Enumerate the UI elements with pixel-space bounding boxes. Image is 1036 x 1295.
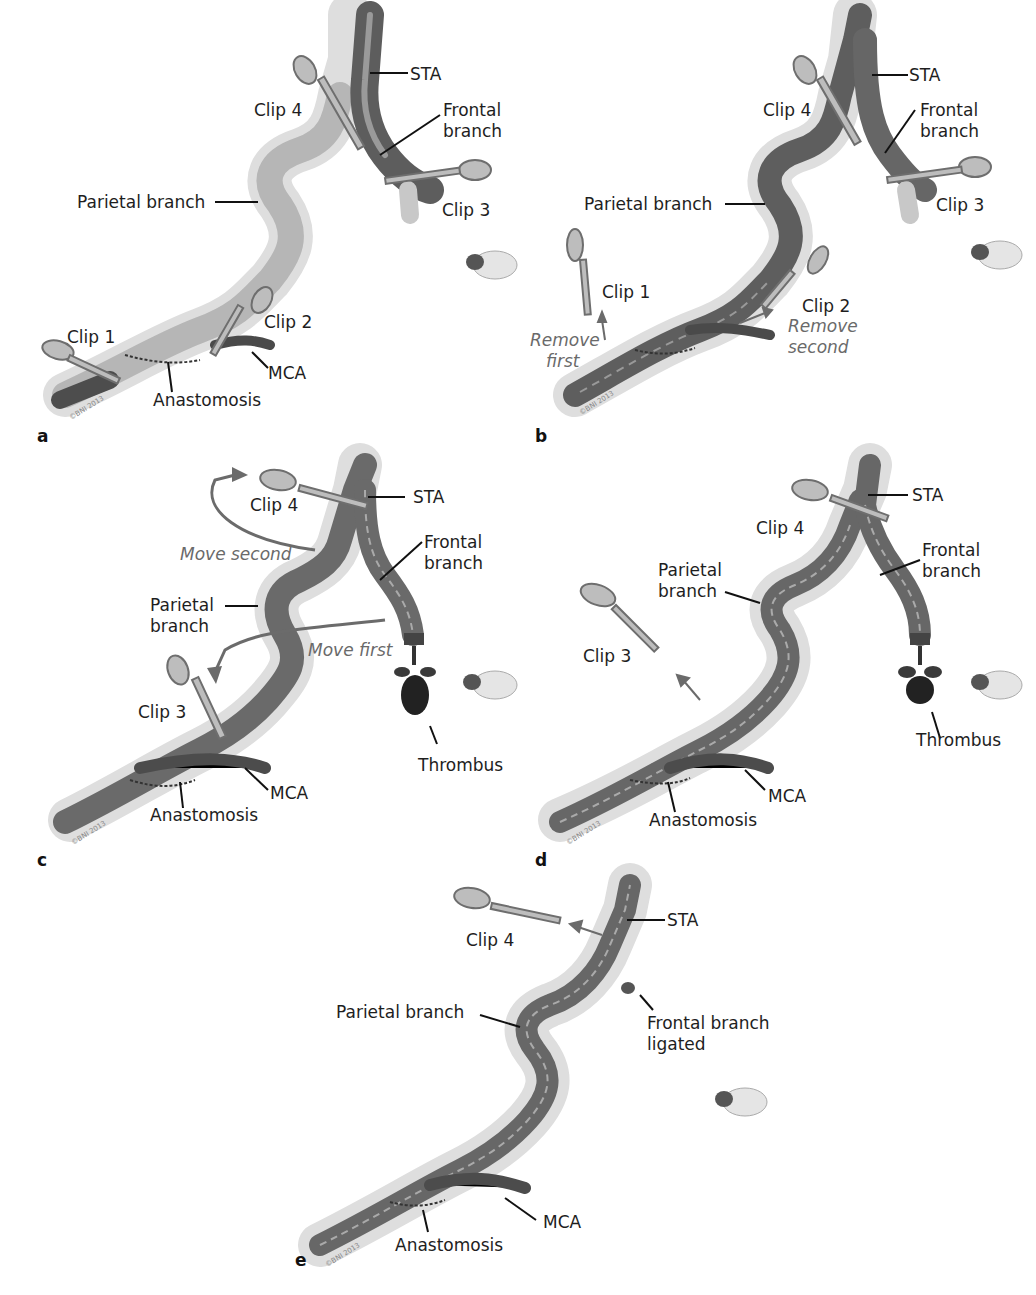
label-sta: STA xyxy=(909,65,941,86)
label-frontal-branch: Frontal branch xyxy=(424,532,483,574)
label-clip-4: Clip 4 xyxy=(250,495,298,516)
label-clip-4: Clip 4 xyxy=(756,518,804,539)
label-frontal-branch: Frontal branch xyxy=(922,540,981,582)
thrombus-icon xyxy=(906,676,934,704)
label-clip-3: Clip 3 xyxy=(442,200,490,221)
label-clip-4: Clip 4 xyxy=(254,100,302,121)
label-mca: MCA xyxy=(543,1212,581,1233)
label-frontal-ligated-line2: ligated xyxy=(647,1034,770,1055)
label-move-first: Move first xyxy=(308,640,393,661)
label-mca: MCA xyxy=(268,363,306,384)
label-frontal-line2: branch xyxy=(922,561,981,582)
panel-e: Clip 4 STA Parietal branch Frontal branc… xyxy=(280,870,780,1295)
label-move-second: Move second xyxy=(180,544,292,565)
label-parietal-branch: Parietal branch xyxy=(336,1002,464,1023)
panel-a: STA Frontal branch Clip 4 Clip 3 Parieta… xyxy=(0,0,520,450)
label-parietal-branch: Parietal branch xyxy=(150,595,214,637)
label-remove-first: Remove first xyxy=(530,330,600,372)
label-frontal-line2: branch xyxy=(443,121,502,142)
label-clip-2: Clip 2 xyxy=(264,312,312,333)
label-clip-4: Clip 4 xyxy=(466,930,514,951)
label-sta: STA xyxy=(413,487,445,508)
label-clip-2: Clip 2 xyxy=(802,296,850,317)
label-frontal-line2: branch xyxy=(424,553,483,574)
panel-letter-b: b xyxy=(535,426,547,446)
label-frontal-line1: Frontal xyxy=(922,540,981,561)
label-frontal-ligated-line1: Frontal branch xyxy=(647,1013,770,1034)
label-clip-3: Clip 3 xyxy=(583,646,631,667)
label-parietal-line1: Parietal xyxy=(150,595,214,616)
label-sta: STA xyxy=(667,910,699,931)
panel-c: STA Clip 4 Move second Frontal branch Pa… xyxy=(0,450,520,870)
label-parietal-branch: Parietal branch xyxy=(584,194,712,215)
label-parietal-branch: Parietal branch xyxy=(77,192,205,213)
label-anastomosis: Anastomosis xyxy=(150,805,258,826)
label-frontal-line2: branch xyxy=(920,121,979,142)
label-frontal-line1: Frontal xyxy=(443,100,502,121)
label-anastomosis: Anastomosis xyxy=(153,390,261,411)
panel-d: STA Clip 4 Frontal branch Parietal branc… xyxy=(520,450,1036,870)
panel-b: STA Frontal branch Clip 4 Clip 3 Parieta… xyxy=(520,0,1036,450)
label-frontal-branch: Frontal branch xyxy=(443,100,502,142)
label-remove-first-line1: Remove xyxy=(530,330,600,351)
label-frontal-branch-ligated: Frontal branch ligated xyxy=(647,1013,770,1055)
label-clip-3: Clip 3 xyxy=(936,195,984,216)
label-parietal-line2: branch xyxy=(658,581,722,602)
label-sta: STA xyxy=(410,64,442,85)
label-clip-3: Clip 3 xyxy=(138,702,186,723)
label-thrombus: Thrombus xyxy=(418,755,503,776)
ligature-icon xyxy=(621,982,635,994)
label-mca: MCA xyxy=(270,783,308,804)
panel-letter-d: d xyxy=(535,850,547,870)
label-frontal-line1: Frontal xyxy=(920,100,979,121)
label-frontal-branch: Frontal branch xyxy=(920,100,979,142)
label-frontal-line1: Frontal xyxy=(424,532,483,553)
label-anastomosis: Anastomosis xyxy=(649,810,757,831)
panel-letter-c: c xyxy=(37,850,47,870)
label-remove-first-line2: first xyxy=(530,351,600,372)
label-clip-1: Clip 1 xyxy=(67,327,115,348)
label-clip-1: Clip 1 xyxy=(602,282,650,303)
thrombus-icon xyxy=(401,675,429,715)
label-parietal-line2: branch xyxy=(150,616,214,637)
panel-b-illustration xyxy=(520,0,1036,450)
label-mca: MCA xyxy=(768,786,806,807)
label-anastomosis: Anastomosis xyxy=(395,1235,503,1256)
panel-a-illustration xyxy=(0,0,520,450)
label-parietal-branch: Parietal branch xyxy=(658,560,722,602)
label-remove-second: Remove second xyxy=(788,316,858,358)
label-sta: STA xyxy=(912,485,944,506)
label-remove-second-line2: second xyxy=(788,337,858,358)
clip-icon xyxy=(453,885,561,923)
label-remove-second-line1: Remove xyxy=(788,316,858,337)
label-thrombus: Thrombus xyxy=(916,730,1001,751)
label-parietal-line1: Parietal xyxy=(658,560,722,581)
panel-e-illustration xyxy=(280,870,780,1295)
panel-letter-a: a xyxy=(37,426,48,446)
label-clip-4: Clip 4 xyxy=(763,100,811,121)
panel-letter-e: e xyxy=(295,1250,307,1270)
